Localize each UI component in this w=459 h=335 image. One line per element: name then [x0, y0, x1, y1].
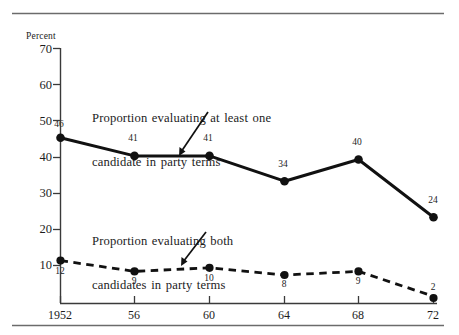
- chart-plot-area: [0, 0, 459, 335]
- series-2-line: [61, 261, 434, 297]
- x-axis-ticks: [61, 296, 434, 303]
- annotation-upper-arrow: [179, 112, 208, 156]
- annotation-lower-arrow: [181, 232, 206, 266]
- figure-container: Percent 70 60 50 40 30 20 10 1952 56 60 …: [0, 0, 459, 335]
- series-2-markers: [56, 257, 437, 303]
- series-1-line: [61, 138, 434, 218]
- y-axis-ticks: [53, 49, 60, 266]
